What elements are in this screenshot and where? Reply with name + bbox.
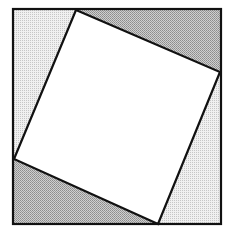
pythagorean-diagram [0,0,234,236]
diagram-canvas [0,0,234,236]
